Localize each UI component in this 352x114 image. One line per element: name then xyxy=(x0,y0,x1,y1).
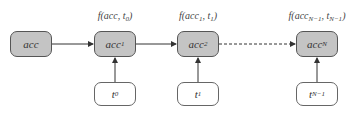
function-label-2: f(accN−1, tN−1) xyxy=(289,10,346,23)
node-acc1: acc1 xyxy=(94,31,136,57)
function-label-1: f(acc1, t1) xyxy=(179,10,217,23)
node-t0: t0 xyxy=(94,82,136,106)
node-tN1: tN−1 xyxy=(296,82,338,106)
node-acc2: acc2 xyxy=(177,31,219,57)
node-accN: accN xyxy=(296,31,338,57)
function-label-0: f(acc, t0) xyxy=(98,10,133,23)
node-t1: t1 xyxy=(177,82,219,106)
node-acc: acc xyxy=(10,31,52,57)
